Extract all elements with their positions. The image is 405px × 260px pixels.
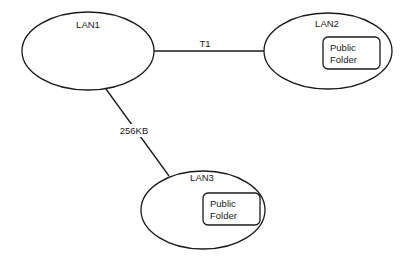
node-label-lan2: LAN2 [315, 18, 339, 29]
node-lan3: LAN3 Public Folder [141, 171, 265, 249]
svg-text:Public: Public [330, 42, 356, 53]
svg-text:Folder: Folder [210, 210, 237, 221]
svg-text:Public: Public [210, 198, 236, 209]
node-label-lan3: LAN3 [190, 172, 214, 183]
edge-label-t1: T1 [199, 38, 210, 49]
node-lan1: LAN1 [22, 12, 154, 90]
edge-lan1-lan3: 256KB [106, 89, 169, 176]
node-lan2: LAN2 Public Folder [264, 13, 392, 89]
network-diagram: T1 256KB LAN1 LAN2 Public Folder LAN3 Pu… [0, 0, 405, 260]
svg-text:Folder: Folder [330, 54, 357, 65]
edge-label-256kb: 256KB [120, 125, 149, 136]
node-label-lan1: LAN1 [76, 19, 100, 30]
edge-lan1-lan2: T1 [154, 38, 264, 51]
public-folder-lan2: Public Folder [323, 37, 380, 69]
public-folder-lan3: Public Folder [203, 193, 260, 225]
